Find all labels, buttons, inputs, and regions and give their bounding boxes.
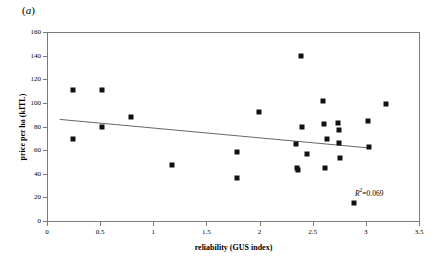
data-point-marker xyxy=(293,142,298,147)
data-point-marker xyxy=(337,141,342,146)
data-point-marker xyxy=(235,176,240,181)
data-point-marker xyxy=(336,120,341,125)
x-axis-title: reliability (GUS index) xyxy=(47,243,420,252)
data-point-marker xyxy=(321,98,326,103)
data-point-marker xyxy=(384,102,389,107)
data-point-marker xyxy=(128,115,133,120)
data-point-marker xyxy=(295,168,300,173)
data-point-marker xyxy=(324,137,329,142)
data-point-marker xyxy=(337,128,342,133)
data-point-marker xyxy=(323,165,328,170)
x-tick-mark xyxy=(47,222,48,226)
plot-area: 020406080100120140160 00.511.522.533.5 R… xyxy=(47,32,420,222)
data-point-marker xyxy=(100,87,105,92)
x-tick-label: 1.5 xyxy=(202,229,211,236)
scatter-plot-figure: (a) price per ha (kITL) reliability (GUS… xyxy=(0,0,442,264)
y-tick-label: 0 xyxy=(38,218,42,225)
x-tick-mark xyxy=(206,222,207,226)
r-squared-annotation: R2=0.069 xyxy=(355,187,383,198)
x-tick-label: 3 xyxy=(364,229,368,236)
x-tick-label: 0 xyxy=(45,229,49,236)
data-point-marker xyxy=(100,124,105,129)
data-point-marker xyxy=(367,144,372,149)
x-tick-mark xyxy=(366,222,367,226)
data-point-marker xyxy=(235,150,240,155)
x-tick-mark xyxy=(153,222,154,226)
x-tick-label: 0.5 xyxy=(96,229,105,236)
data-point-marker xyxy=(256,110,261,115)
r-squared-value: =0.069 xyxy=(362,189,383,198)
x-tick-label: 3.5 xyxy=(415,229,424,236)
data-point-marker xyxy=(70,87,75,92)
x-tick-label: 1 xyxy=(152,229,156,236)
data-point-marker xyxy=(70,137,75,142)
x-tick-mark xyxy=(100,222,101,226)
y-tick-label: 120 xyxy=(31,76,42,83)
y-tick-label: 40 xyxy=(34,170,41,177)
data-point-marker xyxy=(322,122,327,127)
x-tick-mark xyxy=(313,222,314,226)
data-point-marker xyxy=(299,53,304,58)
y-tick-label: 140 xyxy=(31,52,42,59)
y-tick-label: 20 xyxy=(34,194,41,201)
data-point-marker xyxy=(365,118,370,123)
x-tick-mark xyxy=(419,222,420,226)
y-tick-label: 80 xyxy=(34,123,41,130)
data-point-marker xyxy=(338,156,343,161)
panel-label: (a) xyxy=(22,4,35,16)
y-tick-label: 60 xyxy=(34,147,41,154)
data-point-marker xyxy=(305,151,310,156)
data-point-marker xyxy=(352,201,357,206)
x-tick-label: 2.5 xyxy=(308,229,317,236)
regression-line xyxy=(60,119,367,147)
data-point-marker xyxy=(300,124,305,129)
y-tick-label: 160 xyxy=(31,29,42,36)
y-axis-title: price per ha (kITL) xyxy=(18,32,30,222)
x-tick-mark xyxy=(260,222,261,226)
panel-label-suffix: ) xyxy=(31,4,35,16)
y-tick-label: 100 xyxy=(31,99,42,106)
data-point-marker xyxy=(170,163,175,168)
x-tick-label: 2 xyxy=(258,229,262,236)
